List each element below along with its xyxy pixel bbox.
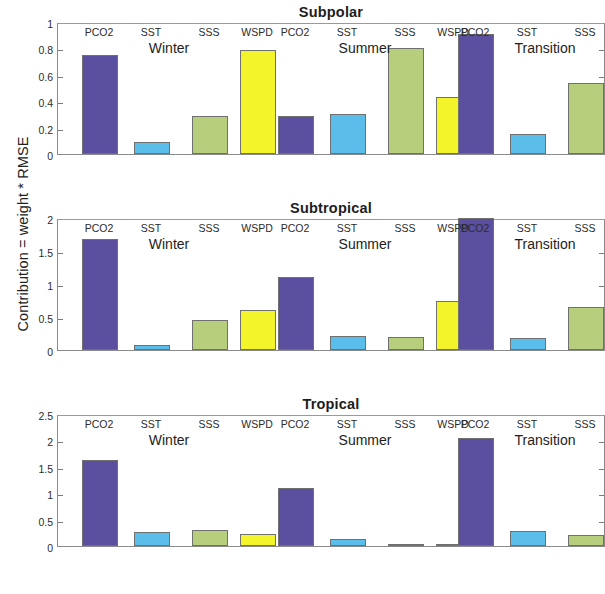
x-tick-label: SSS: [574, 418, 595, 430]
x-tick-label: SST: [517, 222, 537, 234]
x-tick-label: SST: [337, 26, 357, 38]
x-tick-label: PCO2: [461, 222, 490, 234]
group-label-summer: Summer: [339, 432, 392, 448]
x-tick-label: PCO2: [85, 222, 114, 234]
x-tick-label: PCO2: [281, 222, 310, 234]
bar-winter-sst: [134, 345, 170, 350]
x-tick-label: SSS: [574, 26, 595, 38]
bar-transition-sss: [568, 307, 604, 350]
y-axis-label: Contribution = weight * RMSE: [15, 69, 31, 399]
bar-transition-sst: [510, 338, 546, 350]
x-tick-label: PCO2: [461, 26, 490, 38]
y-tick-mark: [599, 77, 604, 78]
y-tick-mark: [599, 442, 604, 443]
panel-title-tropical: Tropical: [57, 396, 605, 412]
bar-summer-sss: [388, 337, 424, 350]
bar-summer-sss: [388, 544, 424, 546]
x-tick-label: SST: [141, 418, 161, 430]
y-tick-mark: [58, 442, 63, 443]
group-label-summer: Summer: [339, 40, 392, 56]
y-tick-label: 0.2: [38, 124, 53, 136]
bar-summer-pco2: [278, 277, 314, 350]
bar-transition-sst: [510, 134, 546, 154]
bar-winter-wspd: [240, 50, 276, 154]
bar-transition-sss: [568, 83, 604, 154]
y-tick-label: 0: [47, 346, 53, 358]
group-label-winter: Winter: [149, 40, 189, 56]
y-tick-mark: [599, 50, 604, 51]
figure-root: Contribution = weight * RMSE Subpolar 00…: [0, 0, 605, 594]
bar-summer-sst: [330, 114, 366, 154]
y-tick-label: 0: [47, 150, 53, 162]
y-tick-mark: [58, 103, 63, 104]
bar-winter-sss: [192, 530, 228, 546]
y-tick-label: 1: [47, 18, 53, 30]
y-tick-label: 0.6: [38, 71, 53, 83]
bar-transition-pco2: [458, 218, 494, 350]
y-tick-label: 1: [47, 489, 53, 501]
y-tick-mark: [58, 50, 63, 51]
bar-transition-pco2: [458, 34, 494, 154]
x-tick-label: WSPD: [241, 222, 273, 234]
bar-summer-pco2: [278, 488, 314, 546]
y-tick-label: 1.5: [38, 247, 53, 259]
y-tick-mark: [58, 77, 63, 78]
x-tick-label: SST: [337, 418, 357, 430]
y-tick-mark: [599, 469, 604, 470]
bar-winter-wspd: [240, 534, 276, 546]
y-tick-mark: [599, 286, 604, 287]
x-tick-label: SSS: [574, 222, 595, 234]
x-tick-label: SST: [517, 418, 537, 430]
y-tick-label: 0: [47, 542, 53, 554]
y-tick-mark: [599, 495, 604, 496]
y-tick-label: 0.5: [38, 516, 53, 528]
x-tick-label: SST: [337, 222, 357, 234]
group-label-winter: Winter: [149, 432, 189, 448]
panel-title-subtropical: Subtropical: [57, 200, 605, 216]
bar-winter-sst: [134, 532, 170, 546]
bar-summer-sst: [330, 539, 366, 546]
bar-winter-sss: [192, 320, 228, 350]
y-tick-mark: [599, 253, 604, 254]
bar-winter-pco2: [82, 239, 118, 350]
bar-transition-pco2: [458, 438, 494, 546]
y-tick-mark: [58, 522, 63, 523]
x-tick-label: SSS: [394, 222, 415, 234]
x-tick-label: WSPD: [241, 26, 273, 38]
x-tick-label: SSS: [198, 26, 219, 38]
y-tick-mark: [58, 253, 63, 254]
bar-winter-pco2: [82, 55, 118, 154]
y-tick-mark: [58, 130, 63, 131]
y-tick-label: 0.8: [38, 44, 53, 56]
x-tick-label: PCO2: [461, 418, 490, 430]
group-label-summer: Summer: [339, 236, 392, 252]
bar-winter-pco2: [82, 460, 118, 546]
x-tick-label: SST: [141, 26, 161, 38]
panel-title-subpolar: Subpolar: [57, 4, 605, 20]
bar-summer-sst: [330, 336, 366, 350]
x-tick-label: SST: [517, 26, 537, 38]
y-tick-mark: [599, 522, 604, 523]
bar-winter-sst: [134, 142, 170, 154]
y-tick-label: 1.5: [38, 463, 53, 475]
x-tick-label: SSS: [394, 26, 415, 38]
y-tick-mark: [58, 286, 63, 287]
y-tick-label: 2: [47, 436, 53, 448]
y-tick-label: 2.5: [38, 410, 53, 422]
bar-summer-sss: [388, 48, 424, 154]
x-tick-label: SSS: [198, 222, 219, 234]
group-label-transition: Transition: [515, 40, 576, 56]
y-tick-label: 2: [47, 214, 53, 226]
y-tick-label: 0.5: [38, 313, 53, 325]
x-tick-label: SSS: [394, 418, 415, 430]
bar-summer-pco2: [278, 116, 314, 154]
y-tick-mark: [58, 469, 63, 470]
x-tick-label: SST: [141, 222, 161, 234]
y-tick-mark: [58, 319, 63, 320]
bar-winter-wspd: [240, 310, 276, 350]
bar-winter-sss: [192, 116, 228, 154]
x-tick-label: PCO2: [85, 26, 114, 38]
group-label-transition: Transition: [515, 432, 576, 448]
x-tick-label: SSS: [198, 418, 219, 430]
y-tick-label: 0.4: [38, 97, 53, 109]
